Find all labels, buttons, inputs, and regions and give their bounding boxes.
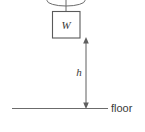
height-label: h <box>76 66 82 78</box>
floor-label: floor <box>111 102 133 114</box>
weight-label: W <box>61 19 71 31</box>
diagram-canvas: W h floor <box>0 0 145 132</box>
arrowhead-up-icon <box>83 37 89 44</box>
physics-diagram-figure: W h floor <box>0 0 145 132</box>
